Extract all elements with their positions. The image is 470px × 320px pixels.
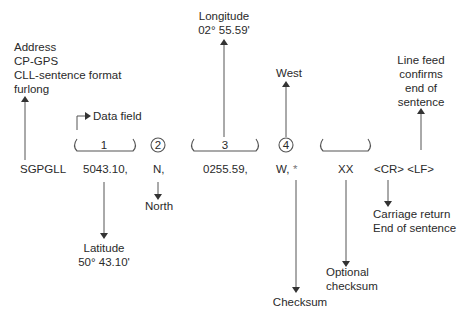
sentence-address: SGPGLL xyxy=(20,163,67,175)
sentence-east-west: W, xyxy=(276,163,289,175)
data-field-label: Data field xyxy=(93,110,142,122)
checksum-asterisk: * xyxy=(293,163,298,175)
north-label: North xyxy=(145,200,173,212)
field-3-marker: 3 xyxy=(222,139,228,151)
sentence-checksum: XX xyxy=(338,163,354,175)
address-label-line: CLL-sentence format xyxy=(14,69,122,81)
sentence-north-south: N, xyxy=(153,163,165,175)
field-1-marker: 1 xyxy=(101,139,107,151)
checksum-bracket xyxy=(321,139,371,151)
address-label-group: Address CP-GPS CLL-sentence format furlo… xyxy=(14,41,122,95)
sentence-longitude: 0255.59, xyxy=(203,163,248,175)
field-4-marker: 4 xyxy=(283,139,290,151)
latitude-label: Latitude xyxy=(84,242,125,254)
longitude-label: Longitude xyxy=(199,10,250,22)
address-label-line: CP-GPS xyxy=(14,55,58,67)
optional-checksum-label: checksum xyxy=(326,280,378,292)
optional-checksum-label: Optional xyxy=(326,266,369,278)
data-field-arrow xyxy=(77,116,88,130)
field-2-marker: 2 xyxy=(155,139,161,151)
latitude-value: 50° 43.10' xyxy=(78,256,130,268)
address-label-line: furlong xyxy=(14,83,49,95)
line-feed-label: end of xyxy=(405,82,438,94)
sentence-latitude: 5043.10, xyxy=(83,163,128,175)
sentence-terminators: <CR> <LF> xyxy=(374,163,434,175)
longitude-value: 02° 55.59' xyxy=(198,24,250,36)
address-label-line: Address xyxy=(14,41,56,53)
carriage-return-label: Carriage return xyxy=(373,208,450,220)
checksum-label: Checksum xyxy=(273,296,327,308)
nmea-sentence-diagram: Address CP-GPS CLL-sentence format furlo… xyxy=(0,0,470,320)
line-feed-label: sentence xyxy=(398,96,445,108)
line-feed-label: Line feed xyxy=(397,54,444,66)
west-label: West xyxy=(276,67,303,79)
end-of-sentence-label: End of sentence xyxy=(373,222,456,234)
line-feed-label: confirms xyxy=(399,68,443,80)
